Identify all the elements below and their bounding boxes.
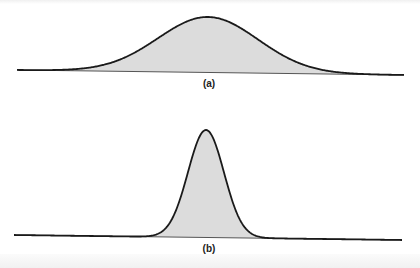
- scan-edge-bottom: [0, 254, 420, 268]
- panel-a-label: (a): [203, 78, 215, 89]
- distribution-figure: [0, 0, 420, 268]
- panel-a-wide-bell-curve: [17, 17, 404, 75]
- panel-b-narrow-bell-curve: [14, 130, 402, 240]
- panel-b-label: (b): [203, 243, 216, 254]
- curve-b-fill: [14, 130, 402, 240]
- curve-a-fill: [17, 17, 404, 75]
